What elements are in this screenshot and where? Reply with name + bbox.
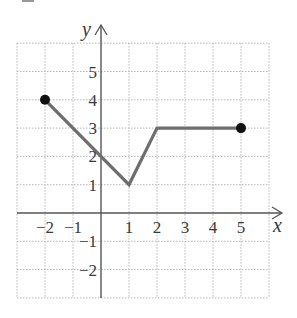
tick-labels: −2−112345−2−112345 xyxy=(36,63,245,280)
y-tick-label: −1 xyxy=(79,232,97,251)
y-tick-label: 2 xyxy=(89,147,98,166)
axes: xy xyxy=(17,18,282,298)
coordinate-plane-graph: xy −2−112345−2−112345 xyxy=(0,0,297,318)
closed-endpoint-dot xyxy=(40,95,50,105)
y-tick-label: 4 xyxy=(89,91,98,110)
y-tick-label: 3 xyxy=(89,119,98,138)
x-tick-label: 2 xyxy=(153,218,162,237)
x-tick-label: 1 xyxy=(125,218,134,237)
grid xyxy=(17,43,269,298)
y-tick-label: −2 xyxy=(79,261,97,280)
x-tick-label: 4 xyxy=(209,218,218,237)
x-axis-label: x xyxy=(272,214,282,236)
function-graph-line xyxy=(45,100,241,185)
y-tick-label: 5 xyxy=(89,63,98,82)
x-tick-label: 3 xyxy=(181,218,190,237)
x-tick-label: 5 xyxy=(237,218,246,237)
y-axis-label: y xyxy=(80,18,91,41)
closed-endpoint-dot xyxy=(236,123,246,133)
x-tick-label: −2 xyxy=(36,218,54,237)
y-tick-label: 1 xyxy=(89,176,98,195)
data-series xyxy=(40,95,246,185)
